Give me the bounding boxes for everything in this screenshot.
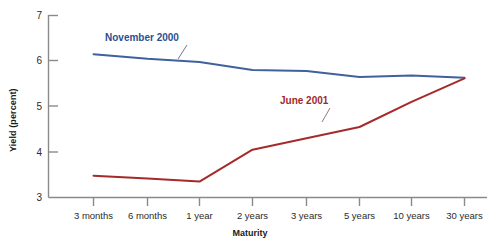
y-tick-label-4: 4 — [36, 147, 42, 158]
y-axis-title: Yield (percent) — [8, 88, 18, 152]
y-tick-label-3: 3 — [36, 192, 42, 203]
annotation-november-2000: November 2000 — [105, 32, 179, 43]
annotation-june-2001: June 2001 — [280, 95, 329, 106]
x-tick-label-2-years: 2 years — [237, 210, 268, 221]
x-tick-label-3-months: 3 months — [74, 210, 113, 221]
x-tick-label-5-years: 5 years — [344, 210, 375, 221]
chart-svg: Yield (percent) 7 6 5 4 3 3 months 6 mon… — [0, 0, 494, 245]
yield-curve-chart: Yield (percent) 7 6 5 4 3 3 months 6 mon… — [0, 0, 494, 245]
series-line-june-2001 — [94, 78, 465, 181]
leader-line-november — [178, 45, 187, 59]
leader-line-june — [322, 108, 330, 122]
y-tick-label-7: 7 — [36, 10, 42, 21]
y-tick-label-6: 6 — [36, 55, 42, 66]
series-line-november-2000 — [94, 54, 465, 78]
x-tick-label-3-years: 3 years — [291, 210, 322, 221]
x-axis-title: Maturity — [232, 228, 267, 238]
y-tick-label-5: 5 — [36, 101, 42, 112]
x-tick-label-30-years: 30 years — [446, 210, 483, 221]
x-tick-label-1-year: 1 year — [186, 210, 212, 221]
x-tick-label-10-years: 10 years — [393, 210, 430, 221]
x-tick-label-6-months: 6 months — [128, 210, 167, 221]
